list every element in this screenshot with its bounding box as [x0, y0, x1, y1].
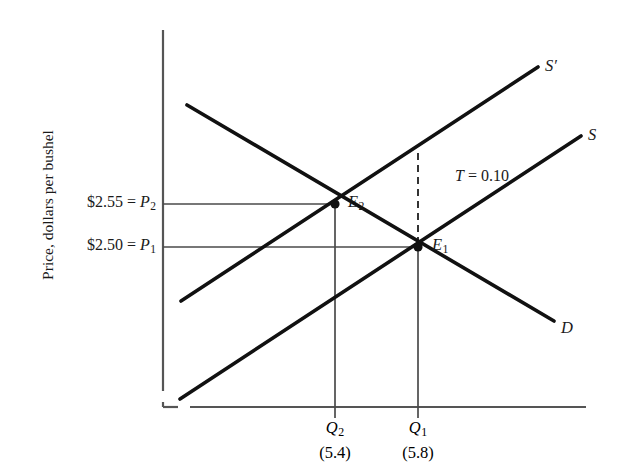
curve-label-s-prime-mark: ′	[553, 56, 557, 75]
quantity-label-q1-subscript: 1	[421, 425, 427, 439]
curve-label-s-prime-letter: S	[545, 56, 553, 75]
quantity-label-q2: Q2 (5.4)	[290, 418, 380, 463]
curve-label-supply: S	[588, 127, 596, 144]
price-label-p1-value: $2.50 =	[87, 236, 140, 253]
quantity-label-q1-value: (5.8)	[373, 443, 463, 463]
curve-label-supply-after-tax: S′	[545, 58, 557, 75]
price-label-p2-variable: P	[140, 193, 150, 210]
quantity-label-q1-variable: Q	[409, 418, 421, 437]
quantity-label-q2-value: (5.4)	[290, 443, 380, 463]
equilibrium-point-e2	[330, 199, 339, 208]
curve-label-demand: D	[561, 320, 573, 337]
supply-demand-tax-figure: Price, dollars per bushel $2.55 = P2 $2.…	[0, 0, 636, 466]
equilibrium-label-e1: E1	[432, 237, 449, 256]
tax-annotation-variable: T	[455, 167, 464, 184]
quantity-label-q2-subscript: 2	[338, 425, 344, 439]
equilibrium-label-e2: E2	[348, 194, 365, 213]
supply-curve	[180, 136, 581, 399]
supply-curve-after-tax	[181, 67, 538, 301]
equilibrium-label-e1-variable: E	[432, 235, 442, 254]
demand-curve	[187, 105, 554, 321]
equilibrium-label-e1-subscript: 1	[442, 242, 448, 256]
price-label-p1: $2.50 = P1	[20, 237, 156, 256]
quantity-label-q2-variable: Q	[326, 418, 338, 437]
price-label-p1-variable: P	[140, 236, 150, 253]
plot-canvas	[0, 0, 636, 466]
quantity-label-q1: Q1 (5.8)	[373, 418, 463, 463]
equilibrium-label-e2-variable: E	[348, 192, 358, 211]
price-label-p2-subscript: 2	[150, 200, 156, 212]
price-label-p1-subscript: 1	[150, 243, 156, 255]
price-label-p2: $2.55 = P2	[20, 194, 156, 213]
tax-annotation-value: = 0.10	[464, 167, 509, 184]
tax-annotation-label: T = 0.10	[455, 168, 509, 184]
equilibrium-label-e2-subscript: 2	[358, 199, 364, 213]
equilibrium-point-e1	[413, 242, 422, 251]
price-label-p2-value: $2.55 =	[87, 193, 140, 210]
